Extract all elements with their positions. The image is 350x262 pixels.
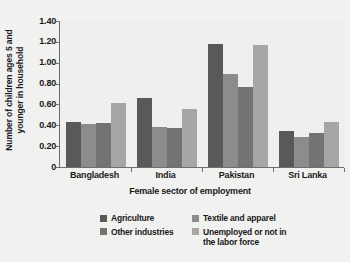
bar[interactable] <box>309 133 324 167</box>
bar[interactable] <box>66 122 81 167</box>
y-axis-tick-label: 1.40 <box>26 17 56 26</box>
bar-chart: Number of children ages 5 and younger in… <box>0 0 350 262</box>
bar[interactable] <box>137 98 152 167</box>
legend-item[interactable]: Other industries <box>100 227 192 248</box>
legend-label: Agriculture <box>111 213 154 224</box>
x-axis-title: Female sector of employment <box>40 186 340 196</box>
y-axis-title-line-1: Number of children ages 5 and <box>4 29 14 150</box>
y-axis-tick-label: 0.40 <box>26 121 56 130</box>
chart-legend: AgricultureTextile and apparelOther indu… <box>100 213 340 248</box>
x-axis-tick-label: Sri Lanka <box>272 170 343 181</box>
bar[interactable] <box>81 124 96 167</box>
x-axis-tick-label: India <box>130 170 201 181</box>
x-axis-tick-label: Pakistan <box>201 170 272 181</box>
bar[interactable] <box>223 74 238 167</box>
y-axis-tick-label: 0.60 <box>26 100 56 109</box>
legend-swatch-icon <box>192 215 199 222</box>
legend-item[interactable]: Textile and apparel <box>192 213 340 224</box>
y-axis-tick-label: 1.20 <box>26 37 56 46</box>
bar[interactable] <box>324 122 339 167</box>
bar[interactable] <box>167 128 182 167</box>
bar[interactable] <box>208 44 223 167</box>
y-axis-tick-label: 1.00 <box>26 58 56 67</box>
bar[interactable] <box>182 109 197 167</box>
y-axis-tick-label: 0.20 <box>26 142 56 151</box>
legend-swatch-icon <box>192 228 199 235</box>
y-axis-tick-labels: 00.200.400.600.801.001.201.40 <box>26 16 56 168</box>
bar[interactable] <box>253 45 268 167</box>
legend-swatch-icon <box>100 215 107 222</box>
bar-group-sri-lanka <box>273 21 344 167</box>
x-axis-tick-label: Bangladesh <box>59 170 130 181</box>
legend-label: Other industries <box>111 227 173 238</box>
plot-area <box>59 21 344 168</box>
bar[interactable] <box>294 137 309 167</box>
bar[interactable] <box>279 131 294 168</box>
bar[interactable] <box>152 127 167 167</box>
legend-label: Unemployed or not in the labor force <box>203 227 286 248</box>
legend-label: Textile and apparel <box>203 213 276 224</box>
x-axis-tick-mark <box>344 168 345 172</box>
legend-item[interactable]: Agriculture <box>100 213 192 224</box>
bar-group-pakistan <box>202 21 273 167</box>
legend-swatch-icon <box>100 228 107 235</box>
y-axis-tick-label: 0 <box>26 163 56 172</box>
y-axis-tick-mark <box>56 167 60 168</box>
x-axis-tick-labels: BangladeshIndiaPakistanSri Lanka <box>59 170 343 184</box>
y-axis-title-line-2: younger in household <box>15 29 26 150</box>
y-axis-tick-label: 0.80 <box>26 79 56 88</box>
bar[interactable] <box>96 123 111 167</box>
bar[interactable] <box>111 103 126 167</box>
bar-group-india <box>131 21 202 167</box>
legend-item[interactable]: Unemployed or not in the labor force <box>192 227 340 248</box>
bar[interactable] <box>238 87 253 167</box>
bar-group-bangladesh <box>60 21 131 167</box>
